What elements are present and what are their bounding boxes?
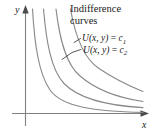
curve-label-c1-equals: = — [108, 33, 118, 43]
curve-label-c1: U(x, y) = c1 — [82, 33, 126, 45]
svg-text:U(x, y) = c2: U(x, y) = c2 — [83, 45, 128, 57]
figure-title-line-1: Indifference — [70, 3, 121, 14]
curve-label-c2-args: (x, y) — [90, 45, 110, 56]
x-axis-label: x — [141, 119, 147, 130]
indifference-curves-figure: Indifference curves U(x, y) = c1 U(x, y)… — [0, 0, 155, 133]
figure-canvas: Indifference curves U(x, y) = c1 U(x, y)… — [0, 0, 155, 133]
svg-text:U(x, y) = c1: U(x, y) = c1 — [82, 33, 126, 45]
curve-label-c1-args: (x, y) — [89, 33, 109, 44]
figure-title-line-2: curves — [70, 15, 97, 26]
x-axis-arrowhead — [141, 110, 150, 116]
curve-label-c2-equals: = — [109, 45, 119, 55]
curve-label-c2-subscript: 2 — [124, 49, 128, 56]
y-axis-arrowhead — [22, 5, 28, 14]
leader-lines-group — [62, 39, 81, 60]
y-axis-label: y — [14, 4, 20, 15]
curve-label-c2: U(x, y) = c2 — [83, 45, 128, 57]
